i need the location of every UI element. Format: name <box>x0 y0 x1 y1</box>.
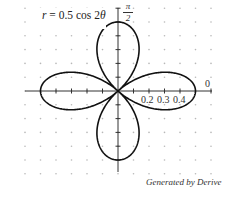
pi-denominator: 2 <box>126 13 131 23</box>
tick-label-0.4: 0.4 <box>173 94 186 105</box>
equation-theta: θ <box>100 9 106 21</box>
credit-text: Generated by Derive <box>146 177 221 187</box>
equation-body: = 0.5 cos 2 <box>46 9 99 21</box>
tick-label-0.2: 0.2 <box>141 94 154 105</box>
pi-numerator: π <box>126 1 131 11</box>
equation-label: r = 0.5 cos 2θ <box>42 9 106 21</box>
vertical-axis-label: π 2 <box>122 2 134 23</box>
tick-label-0.3: 0.3 <box>157 94 170 105</box>
polar-axis-zero-label: 0 <box>205 78 210 89</box>
polar-plot <box>0 0 225 202</box>
